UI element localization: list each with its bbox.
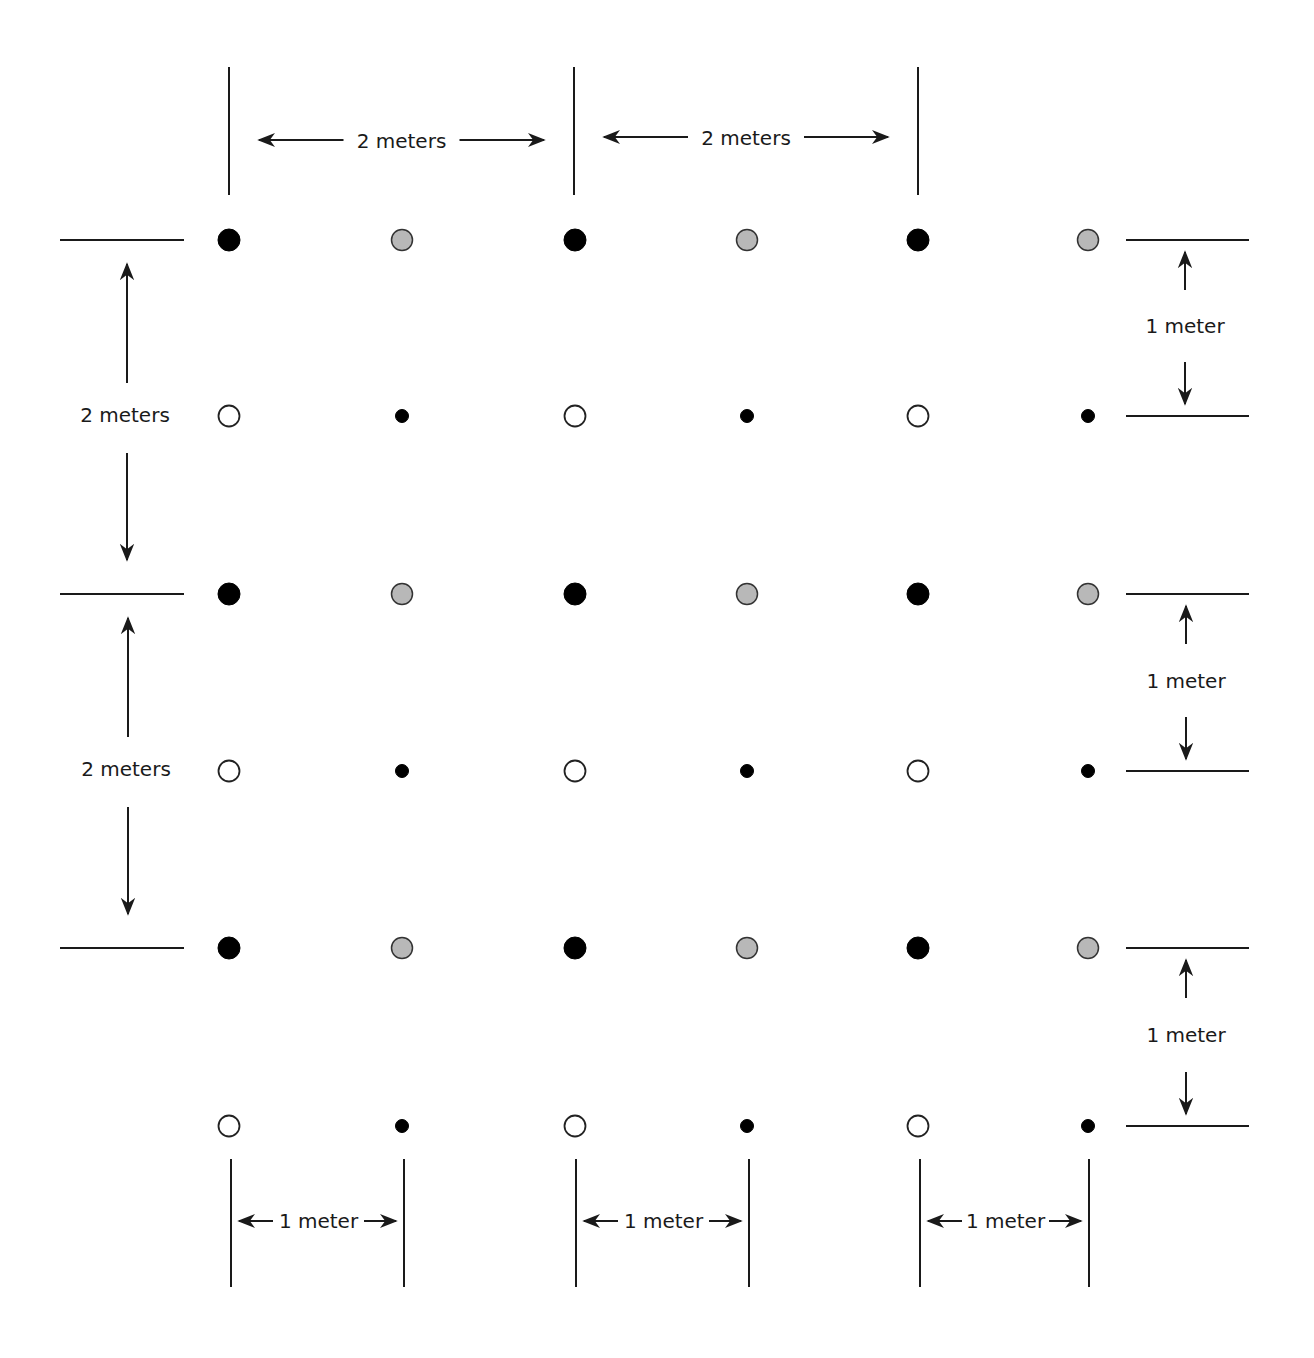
gray-circle-icon — [737, 938, 758, 959]
large-black-circle-icon — [907, 229, 929, 251]
small-black-dot-icon — [396, 1120, 409, 1133]
small-black-dot-icon — [1082, 765, 1095, 778]
dimension-label: 1 meter — [1146, 1023, 1226, 1047]
open-circle-icon — [565, 406, 586, 427]
open-circle-icon — [565, 1116, 586, 1137]
large-black-circle-icon — [218, 229, 240, 251]
open-circle-icon — [908, 1116, 929, 1137]
dimension-label: 1 meter — [966, 1209, 1046, 1233]
large-black-circle-icon — [564, 229, 586, 251]
plant-spacing-diagram: 2 meters2 meters 2 meters2 meters 1 mete… — [0, 0, 1314, 1358]
dimension-label: 2 meters — [80, 403, 170, 427]
dimension-label: 2 meters — [81, 757, 171, 781]
large-black-circle-icon — [218, 937, 240, 959]
small-black-dot-icon — [1082, 1120, 1095, 1133]
dimension-label: 1 meter — [279, 1209, 359, 1233]
gray-circle-icon — [392, 584, 413, 605]
gray-circle-icon — [1078, 584, 1099, 605]
open-circle-icon — [908, 761, 929, 782]
small-black-dot-icon — [396, 410, 409, 423]
small-black-dot-icon — [741, 410, 754, 423]
open-circle-icon — [565, 761, 586, 782]
large-black-circle-icon — [907, 583, 929, 605]
large-black-circle-icon — [218, 583, 240, 605]
large-black-circle-icon — [907, 937, 929, 959]
small-black-dot-icon — [741, 1120, 754, 1133]
small-black-dot-icon — [396, 765, 409, 778]
gray-circle-icon — [737, 584, 758, 605]
open-circle-icon — [219, 761, 240, 782]
dimension-label: 1 meter — [1145, 314, 1225, 338]
dimension-label: 1 meter — [1146, 669, 1226, 693]
gray-circle-icon — [1078, 230, 1099, 251]
gray-circle-icon — [392, 938, 413, 959]
large-black-circle-icon — [564, 583, 586, 605]
dimension-label: 2 meters — [701, 126, 791, 150]
gray-circle-icon — [392, 230, 413, 251]
background — [0, 0, 1314, 1358]
gray-circle-icon — [737, 230, 758, 251]
gray-circle-icon — [1078, 938, 1099, 959]
open-circle-icon — [219, 1116, 240, 1137]
small-black-dot-icon — [741, 765, 754, 778]
dimension-label: 1 meter — [624, 1209, 704, 1233]
large-black-circle-icon — [564, 937, 586, 959]
open-circle-icon — [219, 406, 240, 427]
small-black-dot-icon — [1082, 410, 1095, 423]
open-circle-icon — [908, 406, 929, 427]
dimension-label: 2 meters — [357, 129, 447, 153]
